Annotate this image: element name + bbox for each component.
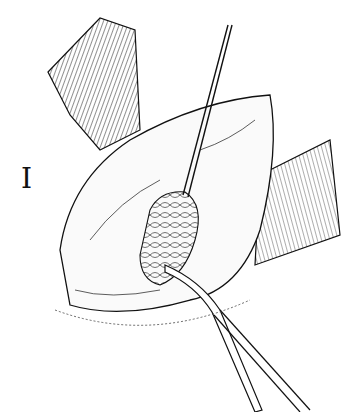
retractor-upper-left xyxy=(48,18,140,150)
illustration-drawing xyxy=(0,0,347,412)
surgical-illustration: I xyxy=(0,0,347,412)
